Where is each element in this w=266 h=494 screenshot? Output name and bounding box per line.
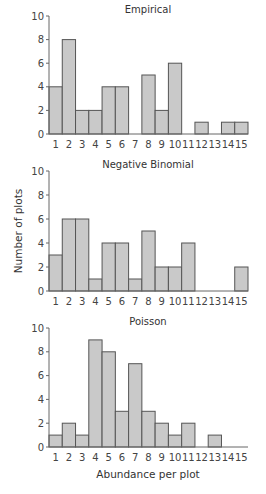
histogram-bar bbox=[49, 435, 62, 447]
chart-title: Negative Binomial bbox=[102, 159, 194, 170]
x-tick-label: 7 bbox=[132, 452, 138, 463]
histogram-bar bbox=[115, 243, 128, 291]
y-tick-label: 4 bbox=[38, 238, 44, 249]
histogram-bar bbox=[168, 63, 181, 134]
x-tick-label: 10 bbox=[169, 296, 182, 307]
histogram-bar bbox=[76, 110, 89, 134]
chart-panel-empirical: Empirical0246810123456789101112131415 bbox=[31, 4, 248, 150]
y-tick-label: 8 bbox=[38, 190, 44, 201]
x-tick-label: 4 bbox=[92, 139, 98, 150]
histogram-bar bbox=[129, 279, 142, 291]
histogram-bar bbox=[102, 352, 115, 447]
y-tick-label: 2 bbox=[38, 105, 44, 116]
y-tick-label: 6 bbox=[38, 214, 44, 225]
y-tick-label: 2 bbox=[38, 262, 44, 273]
histogram-bar bbox=[49, 87, 62, 134]
chart-panel-poisson: Poisson0246810123456789101112131415 bbox=[31, 316, 248, 463]
histogram-bar bbox=[235, 122, 248, 134]
histogram-bar bbox=[182, 243, 195, 291]
histogram-bar bbox=[235, 267, 248, 291]
x-tick-label: 6 bbox=[119, 452, 125, 463]
histogram-bar bbox=[62, 423, 75, 447]
y-tick-label: 4 bbox=[38, 81, 44, 92]
y-tick-label: 0 bbox=[38, 442, 44, 453]
x-tick-label: 8 bbox=[145, 452, 151, 463]
x-tick-label: 3 bbox=[79, 139, 85, 150]
x-tick-label: 15 bbox=[235, 139, 248, 150]
x-tick-label: 9 bbox=[159, 139, 165, 150]
x-tick-label: 5 bbox=[106, 296, 112, 307]
histogram-bar bbox=[76, 219, 89, 291]
histogram-bar bbox=[62, 219, 75, 291]
x-tick-label: 13 bbox=[208, 452, 221, 463]
histogram-bar bbox=[142, 75, 155, 134]
histogram-bar bbox=[142, 411, 155, 447]
x-tick-label: 14 bbox=[222, 296, 235, 307]
histogram-bar bbox=[76, 435, 89, 447]
histogram-bar bbox=[168, 267, 181, 291]
histogram-bar bbox=[89, 279, 102, 291]
histogram-bar bbox=[115, 411, 128, 447]
x-tick-label: 10 bbox=[169, 139, 182, 150]
y-tick-label: 4 bbox=[38, 394, 44, 405]
y-tick-label: 8 bbox=[38, 34, 44, 45]
y-tick-label: 0 bbox=[38, 129, 44, 140]
x-tick-label: 5 bbox=[106, 139, 112, 150]
histogram-bar bbox=[155, 110, 168, 134]
x-tick-label: 14 bbox=[222, 452, 235, 463]
histogram-bar bbox=[155, 423, 168, 447]
histogram-bar bbox=[89, 340, 102, 447]
x-tick-label: 10 bbox=[169, 452, 182, 463]
histogram-bar bbox=[102, 87, 115, 134]
histogram-bar bbox=[182, 423, 195, 447]
x-tick-label: 3 bbox=[79, 296, 85, 307]
x-tick-label: 4 bbox=[92, 296, 98, 307]
y-tick-label: 10 bbox=[31, 323, 44, 334]
histogram-bar bbox=[89, 110, 102, 134]
x-tick-label: 8 bbox=[145, 139, 151, 150]
y-tick-label: 10 bbox=[31, 11, 44, 22]
histogram-bar bbox=[155, 267, 168, 291]
x-tick-label: 14 bbox=[222, 139, 235, 150]
x-tick-label: 12 bbox=[195, 452, 208, 463]
x-tick-label: 15 bbox=[235, 296, 248, 307]
histogram-figure: Empirical0246810123456789101112131415Neg… bbox=[0, 0, 266, 494]
y-axis-label: Number of plots bbox=[12, 189, 24, 274]
histogram-bar bbox=[168, 435, 181, 447]
x-tick-label: 9 bbox=[159, 452, 165, 463]
chart-title: Poisson bbox=[129, 316, 166, 327]
x-tick-label: 6 bbox=[119, 139, 125, 150]
histogram-bar bbox=[129, 364, 142, 447]
histogram-bar bbox=[49, 255, 62, 291]
histogram-bar bbox=[221, 122, 234, 134]
x-tick-label: 9 bbox=[159, 296, 165, 307]
x-tick-label: 13 bbox=[208, 139, 221, 150]
x-tick-label: 3 bbox=[79, 452, 85, 463]
x-tick-label: 13 bbox=[208, 296, 221, 307]
x-tick-label: 4 bbox=[92, 452, 98, 463]
x-tick-label: 2 bbox=[66, 452, 72, 463]
x-tick-label: 7 bbox=[132, 139, 138, 150]
chart-title: Empirical bbox=[125, 4, 171, 15]
histogram-bar bbox=[115, 87, 128, 134]
x-tick-label: 1 bbox=[52, 139, 58, 150]
x-tick-label: 5 bbox=[106, 452, 112, 463]
x-tick-label: 8 bbox=[145, 296, 151, 307]
x-tick-label: 11 bbox=[182, 452, 195, 463]
histogram-bar bbox=[142, 231, 155, 291]
x-axis-label: Abundance per plot bbox=[96, 468, 199, 480]
y-tick-label: 8 bbox=[38, 346, 44, 357]
x-tick-label: 11 bbox=[182, 139, 195, 150]
y-tick-label: 10 bbox=[31, 166, 44, 177]
y-tick-label: 2 bbox=[38, 418, 44, 429]
x-tick-label: 2 bbox=[66, 139, 72, 150]
x-tick-label: 7 bbox=[132, 296, 138, 307]
histogram-bar bbox=[102, 243, 115, 291]
y-tick-label: 6 bbox=[38, 58, 44, 69]
x-tick-label: 12 bbox=[195, 139, 208, 150]
chart-panel-negative-binomial: Negative Binomial02468101234567891011121… bbox=[31, 159, 248, 307]
histogram-bar bbox=[208, 435, 221, 447]
x-tick-label: 1 bbox=[52, 296, 58, 307]
x-tick-label: 12 bbox=[195, 296, 208, 307]
y-tick-label: 6 bbox=[38, 370, 44, 381]
